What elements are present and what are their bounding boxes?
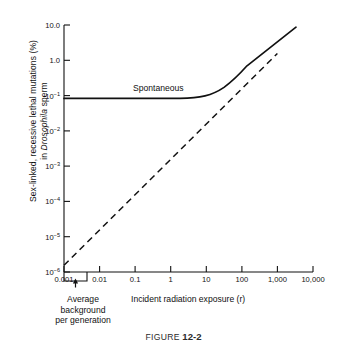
x-tick-label: 0.01 xyxy=(92,275,107,284)
series-label-spontaneous: Spontaneous xyxy=(133,83,184,93)
background-arrow-icon xyxy=(73,278,78,287)
chart-axes xyxy=(64,25,313,272)
figure-caption-word: FIGURE xyxy=(145,332,179,342)
y-axis-title: Sex-linked, recessive lethal mutations (… xyxy=(28,0,50,246)
background-bracket-label: Average background per generation xyxy=(52,294,114,326)
figure-caption: FIGURE 12-2 xyxy=(0,331,347,342)
x-tick-label: 100 xyxy=(236,275,249,284)
x-axis-ticks xyxy=(64,266,313,272)
x-tick-label: 10,000 xyxy=(301,275,324,284)
x-tick-label: 10 xyxy=(202,275,210,284)
x-tick-label: 0.001 xyxy=(54,275,73,284)
y-axis-title-line2: in Drosophila sperm xyxy=(39,0,50,246)
y-axis-title-line1: Sex-linked, recessive lethal mutations (… xyxy=(28,40,38,202)
background-bracket-label-line3: per generation xyxy=(52,315,114,326)
x-tick-label: 1 xyxy=(169,275,173,284)
x-axis-title: Incident radiation exposure (r) xyxy=(131,294,245,304)
background-bracket-label-line1: Average xyxy=(52,294,114,305)
figure-caption-number: 12-2 xyxy=(182,331,201,342)
background-bracket-label-line2: background xyxy=(52,305,114,316)
x-tick-label: 1,000 xyxy=(268,275,287,284)
x-tick-label: 0.1 xyxy=(130,275,141,284)
y-axis-ticks xyxy=(64,25,70,272)
